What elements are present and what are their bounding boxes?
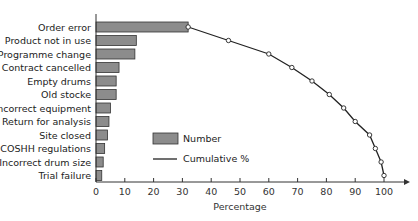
bar (96, 171, 102, 181)
cumulative-marker (327, 92, 331, 96)
category-label: Incorrect equipment (0, 103, 91, 114)
category-label: Programme change (0, 49, 91, 60)
x-tick-label: 60 (263, 186, 275, 197)
bar (96, 90, 116, 100)
category-label: Empty drums (27, 76, 91, 87)
x-axis-label: Percentage (213, 201, 267, 212)
cumulative-marker (310, 79, 314, 83)
category-label: Site closed (39, 130, 91, 141)
cumulative-marker (341, 106, 345, 110)
x-tick-label: 70 (292, 186, 304, 197)
cumulative-marker (373, 146, 377, 150)
category-label: Contract cancelled (2, 62, 91, 73)
x-tick-label: 80 (320, 186, 332, 197)
x-tick-label: 10 (119, 186, 131, 197)
cumulative-marker (379, 160, 383, 164)
category-label: Return for analysis (2, 116, 91, 127)
category-label: Incorrect drum size (0, 157, 91, 168)
bar (96, 36, 136, 46)
x-tick-label: 20 (148, 186, 160, 197)
cumulative-marker (226, 38, 230, 42)
bar (96, 157, 103, 167)
cumulative-marker (186, 25, 190, 29)
cumulative-marker (290, 65, 294, 69)
category-label: Old stocke (41, 89, 91, 100)
legend: Number Cumulative % (153, 133, 249, 164)
legend-label-number: Number (183, 133, 221, 144)
x-tick-label: 100 (375, 186, 393, 197)
bars (96, 22, 188, 181)
cumulative-marker (367, 133, 371, 137)
bar (96, 130, 108, 140)
category-label: Order error (38, 22, 91, 33)
category-label: Product not in use (5, 35, 91, 46)
x-tick-label: 50 (234, 186, 246, 197)
category-label: COSHH regulations (0, 143, 91, 154)
bar (96, 144, 105, 154)
cumulative-marker (353, 119, 357, 123)
bar (96, 63, 119, 73)
x-tick-label: 0 (93, 186, 99, 197)
bar (96, 22, 188, 32)
bar (96, 103, 110, 113)
legend-label-cumulative: Cumulative % (183, 153, 249, 164)
x-tick-label: 90 (349, 186, 361, 197)
x-tick-label: 30 (176, 186, 188, 197)
legend-swatch-number (153, 133, 178, 144)
cumulative-marker (382, 173, 386, 177)
category-label: Trial failure (38, 170, 92, 181)
x-tick-label: 40 (205, 186, 217, 197)
category-labels: Order errorProduct not in useProgramme c… (0, 22, 91, 182)
bar (96, 49, 135, 59)
x-axis-arrow-icon (404, 179, 410, 185)
cumulative-marker (267, 52, 271, 56)
bar (96, 117, 109, 127)
pareto-chart: Order errorProduct not in useProgramme c… (0, 0, 418, 221)
bar (96, 76, 116, 86)
x-ticks: 0102030405060708090100 (93, 178, 393, 197)
